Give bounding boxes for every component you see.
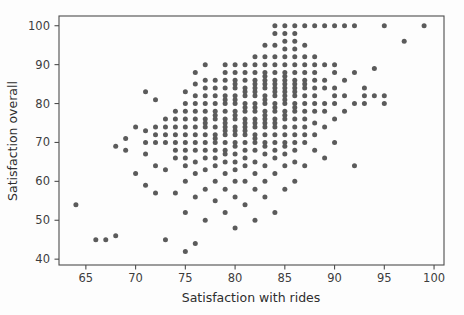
data-point <box>173 109 178 114</box>
data-point <box>223 140 228 145</box>
data-point <box>362 101 367 106</box>
data-point <box>302 54 307 59</box>
data-point <box>223 171 228 176</box>
data-point <box>262 93 267 98</box>
data-point <box>233 78 238 83</box>
x-tick-label: 95 <box>377 271 392 285</box>
data-point <box>193 101 198 106</box>
data-point <box>143 89 148 94</box>
data-point <box>272 62 277 67</box>
data-point <box>292 148 297 153</box>
data-point <box>332 93 337 98</box>
data-point <box>282 124 287 129</box>
data-point <box>193 148 198 153</box>
data-point <box>163 167 168 172</box>
data-point <box>302 101 307 106</box>
data-point <box>282 31 287 36</box>
data-point <box>183 163 188 168</box>
data-point <box>262 54 267 59</box>
data-point <box>203 78 208 83</box>
data-point <box>312 132 317 137</box>
data-point <box>213 101 218 106</box>
data-point <box>292 39 297 44</box>
data-point <box>302 78 307 83</box>
data-point <box>203 167 208 172</box>
data-point <box>133 171 138 176</box>
data-point <box>262 163 267 168</box>
data-point <box>223 70 228 75</box>
data-point <box>203 62 208 67</box>
data-point <box>342 23 347 28</box>
data-point <box>233 159 238 164</box>
data-point <box>183 140 188 145</box>
data-point <box>193 159 198 164</box>
data-point <box>342 109 347 114</box>
data-point <box>193 93 198 98</box>
data-point <box>223 62 228 67</box>
data-point <box>193 109 198 114</box>
data-point <box>213 198 218 203</box>
data-point <box>233 167 238 172</box>
data-point <box>193 171 198 176</box>
data-point <box>422 23 427 28</box>
data-point <box>233 109 238 114</box>
data-point <box>342 93 347 98</box>
data-point <box>292 54 297 59</box>
data-point <box>153 163 158 168</box>
data-point <box>322 156 327 161</box>
data-point <box>223 187 228 192</box>
data-point <box>223 117 228 122</box>
data-point <box>203 85 208 90</box>
data-point <box>143 128 148 133</box>
data-point <box>272 101 277 106</box>
data-point <box>243 85 248 90</box>
data-point <box>262 194 267 199</box>
data-point <box>262 140 267 145</box>
data-point <box>133 124 138 129</box>
y-tick-label: 80 <box>35 97 50 111</box>
plot-canvas: 65707580859095100 405060708090100 Satisf… <box>0 0 464 315</box>
data-point <box>73 202 78 207</box>
data-point <box>173 156 178 161</box>
data-point <box>272 171 277 176</box>
data-point <box>183 89 188 94</box>
data-point <box>342 78 347 83</box>
data-point <box>302 23 307 28</box>
data-point <box>272 210 277 215</box>
data-point <box>292 132 297 137</box>
data-point <box>252 148 257 153</box>
data-point <box>213 132 218 137</box>
data-point <box>143 183 148 188</box>
x-tick-label: 70 <box>128 271 143 285</box>
data-point <box>332 101 337 106</box>
data-point <box>203 132 208 137</box>
data-point <box>252 117 257 122</box>
data-point <box>292 159 297 164</box>
data-point <box>193 70 198 75</box>
data-point <box>243 148 248 153</box>
data-point <box>213 156 218 161</box>
data-point <box>252 70 257 75</box>
data-point <box>243 202 248 207</box>
data-point <box>312 120 317 125</box>
y-tick-label: 40 <box>35 252 50 266</box>
data-point <box>252 171 257 176</box>
data-point <box>382 93 387 98</box>
data-point <box>282 54 287 59</box>
data-point <box>153 191 158 196</box>
y-tick-label: 90 <box>35 58 50 72</box>
data-point <box>282 47 287 52</box>
data-point <box>272 31 277 36</box>
data-point <box>223 210 228 215</box>
data-point <box>203 140 208 145</box>
data-point <box>272 23 277 28</box>
data-point <box>173 117 178 122</box>
data-point <box>272 54 277 59</box>
data-point <box>233 62 238 67</box>
data-point <box>262 132 267 137</box>
data-point <box>223 148 228 153</box>
data-point <box>302 43 307 48</box>
data-point <box>203 93 208 98</box>
data-point <box>213 124 218 129</box>
data-point <box>252 101 257 106</box>
